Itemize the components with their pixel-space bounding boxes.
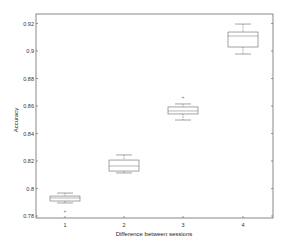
y-tick-label: 0.9 xyxy=(26,48,34,54)
iqr-box xyxy=(228,32,258,47)
box-series: ++ xyxy=(50,24,258,214)
iqr-box xyxy=(50,196,80,201)
x-tick-label: 1 xyxy=(63,222,66,228)
plot-frame xyxy=(36,14,273,218)
box-3: + xyxy=(168,94,198,120)
x-axis-label: Difference between sessions xyxy=(116,231,193,237)
y-axis-label: Accuracy xyxy=(13,108,19,133)
x-tick-label: 2 xyxy=(122,222,125,228)
x-tick-label: 4 xyxy=(241,222,244,228)
box-4 xyxy=(228,24,258,54)
box-1: + xyxy=(50,193,80,214)
y-tick-label: 0.78 xyxy=(23,213,34,219)
plot-border xyxy=(36,14,273,218)
y-tick-label: 0.84 xyxy=(23,131,34,137)
y-axis: 0.780.80.820.840.860.880.90.92 xyxy=(23,21,273,220)
box-plot-chart: 0.780.80.820.840.860.880.90.92 1234 ++ D… xyxy=(0,0,289,247)
y-tick-label: 0.8 xyxy=(26,186,34,192)
y-tick-label: 0.88 xyxy=(23,76,34,82)
y-tick-label: 0.92 xyxy=(23,21,34,27)
iqr-box xyxy=(109,160,139,171)
y-tick-label: 0.82 xyxy=(23,158,34,164)
iqr-box xyxy=(168,107,198,114)
y-tick-label: 0.86 xyxy=(23,103,34,109)
outlier-marker: + xyxy=(182,94,185,100)
outlier-marker: + xyxy=(64,208,67,214)
box-2 xyxy=(109,155,139,173)
x-tick-label: 3 xyxy=(181,222,184,228)
